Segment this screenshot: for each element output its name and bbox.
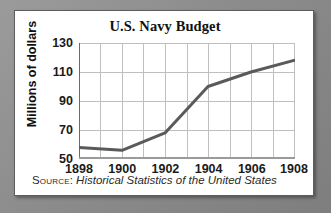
x-tick-label: 1908 [272, 163, 316, 176]
y-tick-label: 70 [43, 124, 73, 137]
y-tick-label: 130 [43, 37, 73, 50]
line-chart-svg [79, 43, 295, 159]
source-line: Source: Historical Statistics of the Uni… [32, 174, 277, 186]
y-tick-label: 90 [43, 95, 73, 108]
y-axis-title: Millions of dollars [25, 19, 39, 129]
page-title: U.S. Navy Budget [15, 18, 315, 35]
source-label: Source: [32, 174, 73, 186]
chart-card: U.S. Navy Budget Millions of dollars 130… [14, 10, 314, 196]
chart-figure: U.S. Navy Budget Millions of dollars 130… [0, 0, 331, 213]
plot-area [79, 43, 295, 159]
y-tick-label: 110 [43, 66, 73, 79]
source-text: Historical Statistics of the United Stat… [76, 174, 277, 186]
y-axis-tick-labels: 130 110 90 70 50 [41, 43, 73, 159]
